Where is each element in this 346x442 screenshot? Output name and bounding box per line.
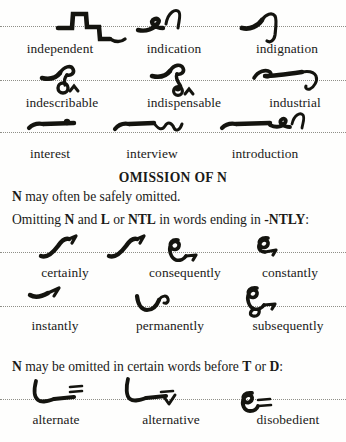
stroke-row-3 (0, 108, 346, 148)
stroke-row-5 (0, 282, 346, 322)
word-label-row-5: instantly permanently subsequently (0, 318, 346, 334)
stroke-row-2 (0, 58, 346, 98)
rule-sentence-3-part2: or (251, 359, 269, 374)
rule-sentence-1: N may often be safely omitted. (12, 189, 180, 205)
word-label: instantly (0, 318, 110, 334)
rule-sentence-2-bold2: L (101, 212, 110, 227)
rule-sentence-2-part2: and (74, 212, 100, 227)
word-label: constantly (240, 265, 340, 281)
word-label: indication (120, 41, 228, 57)
word-label: independent (0, 41, 120, 57)
shorthand-outline-introduction (218, 108, 318, 148)
shorthand-outline-constantly (248, 230, 298, 270)
word-label-row-6: alternate alternative disobedient (0, 412, 346, 428)
rule-sentence-2-part4: in words ending in (156, 212, 264, 227)
rule-sentence-3-part1: may be omitted in certain words before (22, 359, 242, 374)
rule-sentence-2-bold3: NTL (128, 212, 156, 227)
word-label-row-4: certainly consequently constantly (0, 265, 346, 281)
rule-sentence-3-part3: : (279, 359, 283, 374)
rule-sentence-3: N may be omitted in certain words before… (12, 359, 283, 375)
shorthand-outline-certainly (36, 230, 86, 270)
rule-sentence-1-bold: N (12, 189, 22, 204)
shorthand-outline-interest (24, 108, 104, 148)
shorthand-outline-certainly-alt (104, 230, 154, 270)
rule-sentence-2-bold1: N (65, 212, 75, 227)
word-label: alternate (0, 412, 112, 428)
word-label: subsequently (230, 318, 346, 334)
word-label: interview (100, 146, 204, 162)
rule-sentence-2-bold4: -NTLY (264, 212, 305, 227)
stroke-row-1 (0, 2, 346, 42)
rule-sentence-1-text: may often be safely omitted. (22, 189, 181, 204)
rule-sentence-3-bold2: D (269, 359, 279, 374)
word-label: consequently (130, 265, 240, 281)
rule-sentence-2-part1: Omitting (12, 212, 65, 227)
shorthand-outline-alternative (118, 375, 188, 417)
rule-sentence-3-bold1: T (242, 359, 251, 374)
word-label: certainly (0, 265, 130, 281)
shorthand-outline-instantly (26, 282, 86, 322)
rule-sentence-3-bold-lead: N (12, 359, 22, 374)
word-label: disobedient (230, 412, 346, 428)
word-label-row-1: independent indication indignation (0, 41, 346, 57)
rule-sentence-2: Omitting N and L or NTL in words ending … (12, 212, 309, 228)
word-label: interest (0, 146, 100, 162)
shorthand-lesson-page: independent indication indignation (0, 0, 346, 442)
shorthand-outline-interview (110, 108, 200, 148)
word-label: permanently (110, 318, 230, 334)
shorthand-outline-alternate (26, 375, 96, 417)
stroke-row-4: or even (0, 230, 346, 270)
rule-sentence-2-part3: or (110, 212, 128, 227)
word-label: introduction (204, 146, 326, 162)
word-label: indignation (228, 41, 346, 57)
word-label-row-3: interest interview introduction (0, 146, 346, 162)
stroke-row-6 (0, 375, 346, 415)
word-label: alternative (112, 412, 230, 428)
rule-sentence-2-part5: : (305, 212, 309, 227)
section-heading: OMISSION OF N (0, 170, 346, 186)
